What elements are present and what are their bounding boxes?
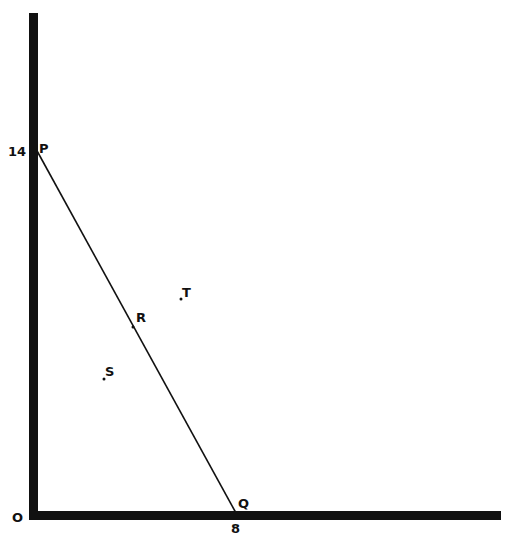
diagram-canvas: 14 P Q R S T O 8 bbox=[0, 0, 513, 548]
x-axis bbox=[29, 511, 501, 520]
point-r-dot bbox=[132, 326, 135, 329]
point-t-label: T bbox=[182, 285, 191, 300]
x-tick-label: 8 bbox=[231, 521, 240, 536]
point-s-label: S bbox=[105, 364, 114, 379]
point-q-label: Q bbox=[238, 496, 249, 511]
point-r-label: R bbox=[136, 310, 146, 325]
y-tick-label: 14 bbox=[8, 144, 26, 159]
segment-pq bbox=[36, 149, 236, 513]
y-axis bbox=[29, 13, 38, 519]
point-p-label: P bbox=[39, 141, 49, 156]
origin-label: O bbox=[12, 510, 23, 525]
